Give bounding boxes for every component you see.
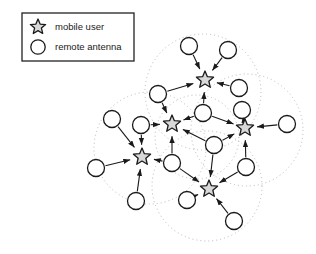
link-a16-to-u5 (217, 199, 229, 214)
antenna-center-left[interactable] (164, 155, 181, 172)
link-a4-to-u2 (162, 103, 167, 113)
antenna-upper-right[interactable] (231, 80, 248, 97)
antenna-right-lower[interactable] (238, 159, 255, 176)
link-a13-to-u5 (219, 172, 237, 183)
link-a5-to-u1 (204, 92, 205, 103)
antenna-left-mid[interactable] (133, 117, 150, 134)
antenna-upper-left[interactable] (150, 86, 167, 103)
link-a5-to-u3 (212, 116, 233, 124)
link-a2-to-u1 (212, 58, 222, 71)
antenna-far-right[interactable] (279, 116, 296, 133)
mobile-user-lowerleft[interactable] (133, 148, 150, 164)
link-a11-to-u5 (180, 169, 199, 182)
mobile-user-bottom[interactable] (200, 180, 217, 196)
link-a5-to-u2 (184, 116, 194, 120)
link-a12-to-u4 (105, 160, 130, 166)
link-a10-to-u5 (210, 155, 213, 177)
link-a1-to-u1 (193, 55, 200, 69)
cell-left (94, 92, 206, 204)
antenna-bottom-right[interactable] (226, 213, 243, 230)
link-a7-to-u4 (118, 127, 134, 148)
antenna-center-upper[interactable] (195, 105, 212, 122)
legend-label-1: remote antenna (55, 41, 122, 52)
antenna-left-outer[interactable] (88, 160, 105, 177)
link-a14-to-u4 (137, 169, 140, 191)
antenna-center[interactable] (206, 137, 223, 154)
legend: mobile userremote antenna (22, 13, 134, 61)
antenna-bottom-inner[interactable] (179, 192, 196, 209)
antenna-top-right[interactable] (220, 42, 237, 59)
diagram-svg: mobile userremote antenna (0, 0, 316, 254)
link-a10-to-u2 (183, 129, 205, 140)
links-layer (105, 55, 277, 214)
legend-label-0: mobile user (55, 21, 104, 32)
antenna-right-upper[interactable] (234, 102, 251, 119)
network-diagram-canvas: mobile userremote antenna (0, 0, 316, 254)
legend-circle-icon (31, 40, 45, 54)
antenna-bottom-left[interactable] (128, 193, 145, 210)
mobile-user-top[interactable] (196, 71, 213, 87)
link-a4-to-u1 (167, 83, 193, 91)
antenna-top-left[interactable] (181, 38, 198, 55)
link-a15-to-u5 (196, 194, 198, 195)
antenna-far-left[interactable] (104, 111, 121, 128)
link-a9-to-u3 (257, 125, 277, 127)
link-a3-to-u1 (217, 83, 230, 86)
mobile-user-midleft[interactable] (163, 115, 180, 131)
mobile-user-right[interactable] (236, 119, 253, 135)
